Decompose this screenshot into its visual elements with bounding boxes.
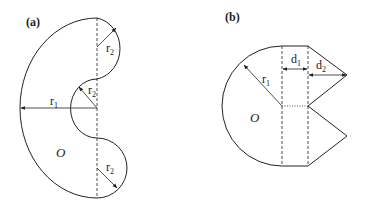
r2-bottom-label: r2 bbox=[106, 160, 114, 176]
origin-label-b: O bbox=[250, 110, 260, 125]
panel-b-label: (b) bbox=[225, 10, 240, 24]
d1-label: d1 bbox=[291, 52, 301, 68]
panel-a: (a) r1 r2 r2 r2 O bbox=[20, 15, 127, 198]
r2-middle-label: r2 bbox=[88, 83, 96, 99]
origin-label-a: O bbox=[56, 145, 66, 160]
r2-top-label: r2 bbox=[106, 41, 114, 57]
panel-b: (b) r1 d1 d2 O bbox=[222, 10, 347, 166]
panel-a-label: (a) bbox=[26, 15, 40, 29]
r1-label: r1 bbox=[50, 94, 58, 110]
figure-canvas: (a) r1 r2 r2 r2 O (b) r1 d1 bbox=[0, 0, 371, 207]
d2-label: d2 bbox=[316, 58, 326, 74]
r1-label-b: r1 bbox=[262, 72, 270, 88]
